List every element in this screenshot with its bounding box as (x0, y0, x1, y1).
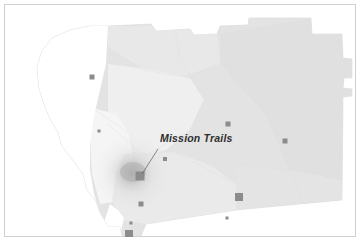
marker-coastal-small[interactable] (98, 130, 101, 133)
map-canvas[interactable] (4, 4, 356, 237)
marker-north-inland[interactable] (226, 122, 231, 127)
marker-southeast-large[interactable] (235, 193, 243, 201)
marker-south-small[interactable] (226, 217, 229, 220)
marker-south-valley[interactable] (139, 202, 144, 207)
map-figure: Mission Trails (0, 0, 361, 247)
marker-border-tiny[interactable] (130, 222, 133, 225)
marker-inland-small[interactable] (163, 157, 167, 161)
marker-north-coastal[interactable] (90, 75, 95, 80)
marker-east[interactable] (283, 139, 288, 144)
map-svg (4, 4, 356, 237)
marker-border-large[interactable] (125, 230, 133, 237)
annotation-label-mission-trails: Mission Trails (160, 133, 233, 144)
